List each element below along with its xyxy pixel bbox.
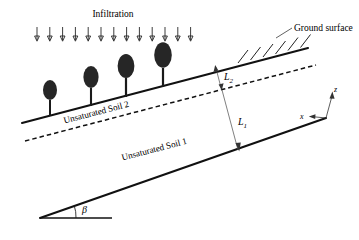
tree — [154, 42, 172, 87]
tree-canopy — [118, 54, 135, 78]
hatch-mark — [238, 50, 248, 63]
tree — [83, 66, 98, 106]
L2-label: L2 — [223, 71, 234, 85]
ground-surface-label: Ground surface — [294, 23, 353, 33]
tree — [43, 80, 57, 116]
L1-dimension-line — [222, 90, 238, 150]
z-axis-line — [326, 96, 332, 118]
soil-slope-diagram: Infiltration β — [0, 0, 359, 240]
hatch-mark — [251, 47, 261, 60]
x-axis-arrowhead — [309, 114, 316, 119]
figure-container: Infiltration β — [0, 0, 359, 240]
infiltration-label: Infiltration — [92, 9, 133, 19]
hatch-mark — [288, 38, 298, 51]
tree — [118, 54, 135, 97]
slope-angle-label: β — [81, 204, 87, 215]
slope-angle-arc — [74, 206, 76, 219]
depth-L1-dimension: L1 — [222, 90, 247, 152]
hatch-mark — [263, 44, 273, 57]
tree-canopy — [154, 42, 172, 68]
ground-surface-leader-line — [276, 28, 292, 38]
L1-label: L1 — [237, 116, 247, 130]
hatch-mark — [276, 41, 286, 54]
soil-interface-line — [25, 65, 316, 141]
hatch-mark — [301, 35, 311, 48]
ground-hatching-group — [238, 35, 311, 64]
bottom-boundary-line — [40, 118, 326, 218]
z-axis-label: z — [333, 85, 338, 94]
coordinate-axes: z x — [299, 85, 338, 121]
infiltration-arrow-group — [35, 27, 193, 41]
tree-canopy — [83, 66, 98, 88]
x-axis-label: x — [299, 112, 304, 121]
tree-canopy — [43, 80, 57, 100]
soil-lower-label: Unsaturated Soil 1 — [121, 136, 188, 162]
